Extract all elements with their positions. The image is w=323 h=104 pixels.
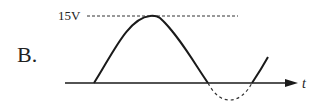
axis-arrow-icon	[285, 79, 298, 87]
positive-half-cycle	[94, 16, 208, 83]
next-positive-half-cycle	[252, 57, 268, 83]
peak-voltage-label: 15V	[58, 8, 81, 23]
option-label: B.	[17, 42, 37, 67]
time-axis-label: t	[302, 76, 307, 91]
negative-half-cycle-dashed	[208, 83, 252, 100]
waveform-figure: B. 15V t	[0, 0, 323, 104]
